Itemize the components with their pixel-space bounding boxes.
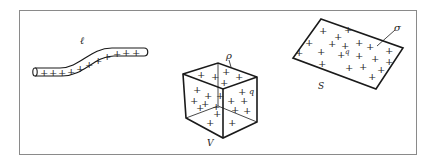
charge-distribution-figure: + + + + + + + + + + + ℓ + + + + + + + + … [0, 0, 436, 163]
svg-text:+: + [113, 48, 121, 59]
svg-text:+: + [49, 67, 57, 78]
svg-text:+: + [76, 63, 84, 74]
svg-text:+: + [211, 71, 219, 82]
svg-text:+: + [222, 66, 230, 77]
svg-text:+: + [345, 62, 353, 73]
svg-text:+: + [355, 37, 363, 48]
svg-text:+: + [359, 61, 367, 72]
svg-text:+: + [371, 53, 379, 64]
svg-text:+: + [122, 47, 130, 58]
svg-text:+: + [235, 71, 243, 82]
svg-text:+: + [231, 104, 239, 115]
surface-charge-label: q [345, 48, 350, 56]
svg-text:+: + [67, 66, 75, 77]
svg-text:+: + [216, 90, 224, 101]
svg-text:+: + [318, 58, 326, 69]
svg-text:+: + [220, 77, 228, 88]
svg-text:+: + [196, 102, 204, 113]
svg-text:+: + [40, 67, 48, 78]
volume-charge-label: q [249, 87, 254, 96]
svg-text:+: + [317, 46, 325, 57]
line-charge-length-label: ℓ [80, 35, 84, 46]
svg-text:+: + [197, 69, 205, 80]
svg-text:+: + [368, 71, 376, 82]
svg-text:+: + [103, 51, 111, 62]
line-charge-wire: + + + + + + + + + + + [33, 47, 148, 78]
svg-text:+: + [385, 45, 393, 56]
svg-text:+: + [206, 117, 214, 128]
volume-label: V [207, 138, 215, 148]
surface-density-label: σ [394, 22, 402, 33]
svg-text:+: + [132, 47, 140, 58]
volume-charge-plus-signs: + + + + + + + + + + + + + + + + + + + + [190, 66, 251, 128]
svg-text:+: + [385, 56, 393, 67]
surface-label: S [318, 81, 324, 91]
svg-text:+: + [377, 64, 385, 75]
svg-text:+: + [295, 47, 303, 58]
svg-text:+: + [305, 37, 313, 48]
svg-text:+: + [94, 55, 102, 66]
svg-text:+: + [58, 67, 66, 78]
svg-text:+: + [355, 50, 363, 61]
svg-text:+: + [193, 84, 201, 95]
svg-text:+: + [85, 59, 93, 70]
svg-text:+: + [328, 38, 336, 49]
svg-text:+: + [366, 41, 374, 52]
volume-density-label: ρ [225, 50, 232, 61]
line-charge-plus-signs: + + + + + + + + + + + [40, 47, 140, 78]
svg-text:+: + [243, 105, 251, 116]
svg-text:+: + [344, 24, 352, 35]
svg-text:+: + [228, 117, 236, 128]
svg-text:+: + [319, 25, 327, 36]
